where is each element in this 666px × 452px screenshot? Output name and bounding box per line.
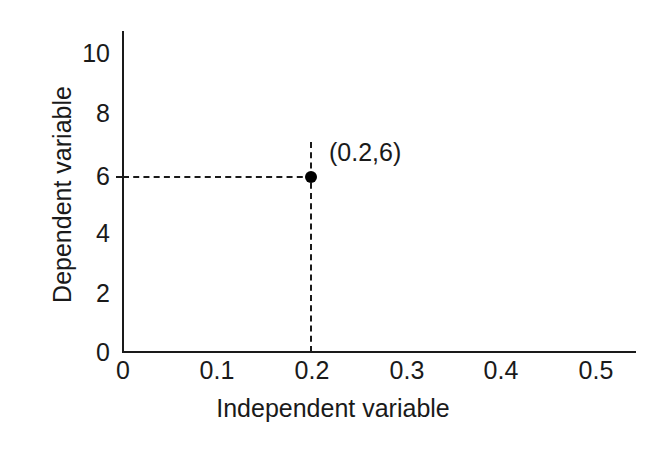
horizontal-dashed-guide [123, 176, 313, 178]
y-axis-line [122, 31, 124, 353]
x-axis-tick-label-0-5: 0.5 [551, 358, 641, 383]
data-point-marker [305, 171, 317, 183]
x-axis-tick-label-0: 0 [78, 358, 168, 383]
x-axis-tick-label-0-1: 0.1 [172, 358, 262, 383]
x-axis-tick-label-0-4: 0.4 [456, 358, 546, 383]
y-axis-tick-mark [116, 176, 123, 178]
data-point-annotation: (0.2,6) [329, 140, 401, 165]
y-axis-title: Dependent variable [50, 45, 75, 345]
x-axis-line [122, 351, 636, 353]
scatter-plot-figure: 10 8 6 4 2 0 0 0.1 0.2 0.3 0.4 0.5 (0.2,… [0, 0, 666, 452]
x-axis-tick-label-0-2: 0.2 [267, 358, 357, 383]
x-axis-tick-label-0-3: 0.3 [362, 358, 452, 383]
x-axis-title: Independent variable [0, 396, 666, 421]
